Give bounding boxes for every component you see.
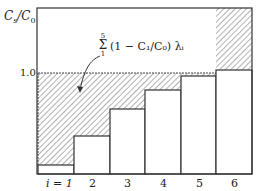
- hatched-region-bar6: [216, 8, 252, 70]
- bar-1: [38, 165, 74, 174]
- bar-6: [216, 70, 252, 174]
- x-label-1: i = 1: [46, 178, 73, 190]
- diagram-canvas: [0, 0, 261, 191]
- bar-3: [110, 109, 145, 174]
- y-tick-1-0: 1.0: [20, 67, 36, 79]
- bar-2: [74, 136, 110, 174]
- x-label-5: 5: [196, 178, 203, 190]
- y-axis-label: Cs/C0: [4, 10, 36, 27]
- x-label-4: 4: [160, 178, 167, 190]
- x-label-2: 2: [89, 178, 96, 190]
- bar-4: [145, 90, 181, 174]
- bar-5: [181, 76, 216, 174]
- x-label-6: 6: [231, 178, 238, 190]
- x-label-3: 3: [124, 178, 131, 190]
- annotation-sum: 5 Σ 1: [97, 33, 109, 58]
- annotation-expression: (1 − C₁/C₀) λᵢ: [110, 41, 184, 53]
